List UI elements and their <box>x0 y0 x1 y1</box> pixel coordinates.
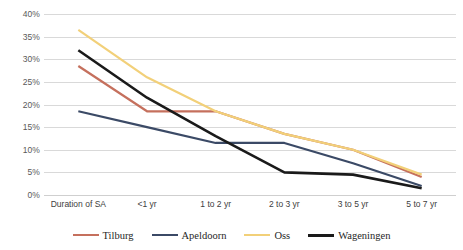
legend-label: Tilburg <box>103 230 134 241</box>
x-axis-tick-label: Duration of SA <box>51 199 106 209</box>
x-axis-tick-label: 5 to 7 yr <box>406 199 437 209</box>
y-axis-tick-label: 0% <box>2 190 40 200</box>
x-axis-tick-label: <1 yr <box>137 199 156 209</box>
chart-legend: TilburgApeldoornOssWageningen <box>0 224 463 246</box>
y-axis-tick-label: 20% <box>2 100 40 110</box>
legend-item-apeldoorn[interactable]: Apeldoorn <box>152 230 227 241</box>
legend-item-wageningen[interactable]: Wageningen <box>308 230 390 241</box>
line-chart: 0%5%10%15%20%25%30%35%40% Duration of SA… <box>0 0 463 250</box>
legend-label: Apeldoorn <box>182 230 227 241</box>
legend-label: Oss <box>274 230 290 241</box>
y-axis-tick-label: 40% <box>2 9 40 19</box>
y-axis-tick-label: 35% <box>2 32 40 42</box>
gridline <box>44 195 456 196</box>
x-axis-tick-label: 2 to 3 yr <box>269 199 300 209</box>
y-axis-tick-label: 15% <box>2 122 40 132</box>
legend-item-oss[interactable]: Oss <box>244 230 290 241</box>
y-axis-tick-label: 5% <box>2 167 40 177</box>
legend-item-tilburg[interactable]: Tilburg <box>73 230 134 241</box>
y-axis-tick-label: 25% <box>2 77 40 87</box>
legend-swatch-icon <box>152 234 178 236</box>
y-axis-tick-label: 10% <box>2 145 40 155</box>
series-line-wageningen <box>78 50 421 188</box>
x-axis: Duration of SA<1 yr1 to 2 yr2 to 3 yr3 t… <box>44 199 456 215</box>
series-layer <box>44 14 456 195</box>
x-axis-tick-label: 3 to 5 yr <box>338 199 369 209</box>
x-axis-tick-label: 1 to 2 yr <box>200 199 231 209</box>
legend-label: Wageningen <box>338 230 390 241</box>
y-axis-tick-label: 30% <box>2 54 40 64</box>
legend-swatch-icon <box>73 234 99 236</box>
y-axis: 0%5%10%15%20%25%30%35%40% <box>0 0 40 250</box>
plot-area <box>44 14 456 195</box>
legend-swatch-icon <box>244 234 270 236</box>
legend-swatch-icon <box>308 234 334 237</box>
